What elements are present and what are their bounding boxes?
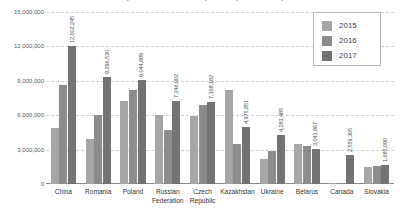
- bar[interactable]: [364, 167, 372, 184]
- bar[interactable]: [303, 146, 311, 184]
- chart-legend: 2015 2016 2017: [313, 12, 381, 66]
- y-axis-tick-label: 0: [0, 181, 44, 187]
- bar[interactable]: [94, 115, 102, 184]
- x-axis-tick-label: Russian Federation: [150, 187, 185, 205]
- bar[interactable]: [242, 127, 250, 184]
- bar[interactable]: [338, 183, 346, 184]
- legend-item-2016[interactable]: 2016: [322, 33, 380, 48]
- bar-group: [155, 12, 180, 184]
- bar-group: [260, 12, 285, 184]
- bar[interactable]: [68, 46, 76, 184]
- bar[interactable]: [207, 102, 215, 184]
- bar-group: [225, 12, 250, 184]
- bar[interactable]: [268, 151, 276, 184]
- y-axis-tick-label: 9,000,000: [0, 78, 44, 84]
- bar-chart: Import of wood and wood products (cubic …: [0, 0, 402, 215]
- y-axis-tick-label: 12,000,000: [0, 43, 44, 49]
- bar-value-label: 1,685,090: [382, 138, 388, 162]
- legend-swatch-icon: [322, 21, 332, 31]
- bar-value-label: 4,975,851: [243, 100, 249, 124]
- bar[interactable]: [155, 115, 163, 184]
- bar[interactable]: [260, 159, 268, 184]
- x-axis-tick-label: Belarus: [290, 187, 325, 196]
- bar-value-label: 7,246,002: [173, 74, 179, 98]
- legend-item-2017[interactable]: 2017: [322, 48, 380, 63]
- x-axis-tick-label: Canada: [324, 187, 359, 196]
- x-axis-tick-label: Slovakia: [359, 187, 394, 196]
- legend-swatch-icon: [322, 51, 332, 61]
- bar[interactable]: [138, 80, 146, 184]
- bar[interactable]: [86, 139, 94, 184]
- bar[interactable]: [59, 85, 67, 184]
- bar-value-label: 12,002,245: [69, 16, 75, 43]
- bar[interactable]: [51, 128, 59, 184]
- x-axis-tick-label: Kazakhstan: [220, 187, 255, 196]
- y-axis-tick-label: 15,000,000: [0, 9, 44, 15]
- bar[interactable]: [190, 116, 198, 184]
- bar[interactable]: [277, 135, 285, 184]
- y-axis-tick-label: 6,000,000: [0, 112, 44, 118]
- bar-value-label: 4,283,485: [278, 108, 284, 132]
- bar[interactable]: [373, 166, 381, 184]
- bar[interactable]: [312, 149, 320, 184]
- x-axis-tick-label: Czech Republic: [185, 187, 220, 205]
- legend-label: 2015: [339, 21, 357, 30]
- bar-value-label: 9,044,889: [138, 53, 144, 77]
- x-axis-tick-label: China: [46, 187, 81, 196]
- x-axis-tick-label: Romania: [81, 187, 116, 196]
- bar-value-label: 7,168,182: [208, 75, 214, 99]
- legend-swatch-icon: [322, 36, 332, 46]
- bar-value-label: 9,296,530: [104, 50, 110, 74]
- x-axis-tick-label: Ukraine: [255, 187, 290, 196]
- bar[interactable]: [329, 183, 337, 184]
- bar-value-label: 2,559,305: [347, 128, 353, 152]
- bar[interactable]: [164, 130, 172, 184]
- bar[interactable]: [294, 144, 302, 184]
- legend-label: 2017: [339, 51, 357, 60]
- bar[interactable]: [225, 90, 233, 184]
- chart-title: Import of wood and wood products (cubic …: [0, 0, 402, 1]
- bar[interactable]: [120, 101, 128, 184]
- bar[interactable]: [103, 77, 111, 184]
- bar-group: [120, 12, 145, 184]
- x-axis-tick-label: Poland: [116, 187, 151, 196]
- bar[interactable]: [129, 90, 137, 184]
- bar[interactable]: [233, 144, 241, 184]
- legend-label: 2016: [339, 36, 357, 45]
- bar[interactable]: [172, 101, 180, 184]
- bar[interactable]: [381, 165, 389, 184]
- bar[interactable]: [199, 105, 207, 184]
- legend-item-2015[interactable]: 2015: [322, 18, 380, 33]
- bar[interactable]: [346, 155, 354, 184]
- y-axis-tick-label: 3,000,000: [0, 147, 44, 153]
- bar-value-label: 3,041,867: [312, 122, 318, 146]
- bar-group: [86, 12, 111, 184]
